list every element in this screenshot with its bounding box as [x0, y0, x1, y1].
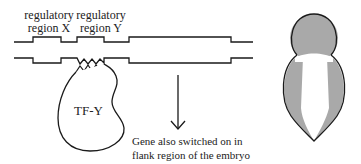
dna-upper-strand	[14, 37, 253, 42]
caption-gene-expression: Gene also switched on in flank region of…	[132, 134, 250, 162]
dna-lower-strand	[14, 58, 253, 64]
label-tf-y: TF-Y	[74, 104, 103, 117]
label-regulatory-region-x: regulatory region X	[20, 9, 78, 35]
label-regulatory-region-y: regulatory region Y	[72, 9, 130, 35]
embryo-illustration	[283, 14, 344, 141]
